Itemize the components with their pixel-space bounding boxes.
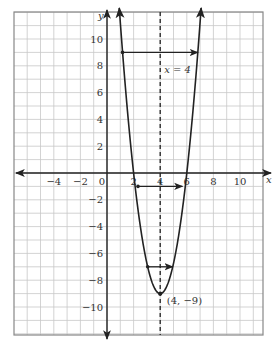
x-tick-label: 10	[234, 176, 247, 187]
y-tick-label: 8	[97, 60, 103, 71]
y-tick-label: −8	[88, 275, 103, 286]
y-tick-label: −6	[88, 248, 103, 259]
x-tick-label: −4	[46, 176, 61, 187]
y-tick-label: −4	[88, 221, 103, 232]
vertex-point	[158, 291, 162, 295]
y-tick-label: 6	[97, 87, 103, 98]
y-tick-label: 4	[97, 114, 103, 125]
y-tick-label: −2	[88, 194, 103, 205]
vertex-label: (4, −9)	[167, 295, 202, 306]
x-tick-label: −2	[73, 176, 88, 187]
x-tick-label: 0	[99, 176, 105, 187]
y-tick-label: 2	[97, 141, 103, 152]
y-tick-label: −10	[82, 302, 103, 313]
y-axis-label: y	[97, 10, 104, 21]
y-tick-label: 10	[90, 34, 103, 45]
parabola-graph: −4−20246810−10−8−6−4−2246810xyx = 4(4, −…	[0, 0, 274, 346]
x-tick-label: 8	[210, 176, 216, 187]
x-axis-label: x	[266, 174, 272, 185]
symmetry-label: x = 4	[164, 64, 191, 75]
